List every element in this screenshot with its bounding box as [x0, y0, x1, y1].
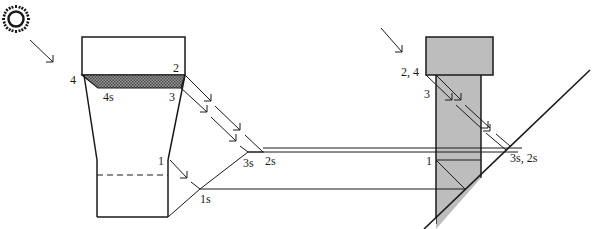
label-point-4: 4	[70, 74, 76, 86]
sun-icon	[2, 5, 30, 33]
sun-ray-arrow	[30, 40, 53, 62]
label-point-1: 1	[158, 155, 164, 167]
label-point-3: 3	[169, 91, 175, 103]
top-box	[82, 37, 185, 75]
sun-ray-arrow-right	[381, 28, 402, 52]
right-figure	[424, 37, 600, 229]
label-point-2s: 2s	[265, 155, 276, 167]
label-point-3s: 3s	[243, 157, 254, 169]
diagram-canvas	[0, 0, 600, 229]
self-shadow-band	[82, 75, 185, 88]
label-point-1s: 1s	[200, 193, 211, 205]
right-top-box	[426, 37, 493, 75]
shadow-projection-diagram: 4 2 3 4s 1 3s 2s 1s 2, 4 3 1 3s, 2s	[0, 0, 600, 229]
label-point-3-right: 3	[424, 88, 430, 100]
left-figure	[82, 37, 436, 217]
label-point-3s-2s: 3s, 2s	[510, 152, 537, 164]
label-point-4s: 4s	[103, 91, 114, 103]
label-point-2: 2	[173, 62, 179, 74]
label-point-2-4: 2, 4	[401, 66, 419, 78]
label-point-1-right: 1	[426, 155, 432, 167]
